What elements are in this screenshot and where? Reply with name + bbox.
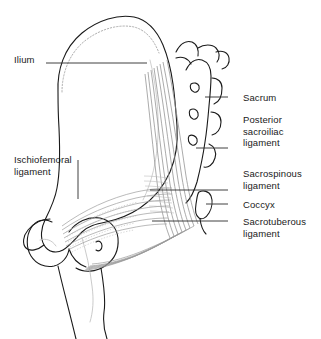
leader-lines bbox=[46, 63, 228, 221]
label-coccyx: Coccyx bbox=[243, 199, 275, 211]
label-posterior-sacroiliac-ligament: Posterior sacroiliac ligament bbox=[243, 114, 284, 149]
sacral-crest bbox=[176, 41, 198, 56]
label-ischiofemoral-ligament: Ischiofemoral ligament bbox=[14, 154, 72, 177]
sacrum-lateral-edge3 bbox=[204, 144, 216, 167]
femur-inner-line bbox=[82, 238, 93, 322]
femur-head-outline bbox=[27, 220, 69, 267]
sacral-foramen-3 bbox=[188, 135, 197, 145]
coccyx-outline bbox=[196, 191, 212, 219]
femur-shaft-right bbox=[101, 268, 107, 339]
label-ilium: Ilium bbox=[14, 54, 35, 66]
label-sacrotuberous-ligament: Sacrotuberous ligament bbox=[243, 216, 306, 239]
sacral-foramen-2 bbox=[189, 109, 198, 119]
bone-outlines bbox=[24, 16, 230, 339]
sacrum-medial-edge bbox=[176, 57, 191, 64]
sacral-foramen-1 bbox=[190, 83, 199, 92]
femur-neck bbox=[69, 249, 86, 267]
femur-shaft-left bbox=[58, 266, 76, 339]
iliac-crest-inner bbox=[62, 26, 159, 92]
sacrum-lateral-edge bbox=[212, 78, 222, 104]
label-sacrum: Sacrum bbox=[243, 92, 276, 104]
label-sacrospinous-ligament: Sacrospinous ligament bbox=[243, 168, 302, 191]
trochanter-detail bbox=[96, 241, 102, 251]
sacrum-outline bbox=[186, 59, 211, 203]
sacrum-lateral-edge2 bbox=[211, 112, 221, 135]
